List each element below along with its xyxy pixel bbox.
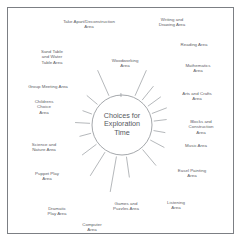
spoke-line bbox=[110, 157, 116, 192]
spoke-line bbox=[90, 152, 105, 176]
spoke-line bbox=[148, 97, 161, 106]
spoke-line bbox=[154, 131, 166, 133]
spoke-line bbox=[126, 157, 129, 178]
spoke-line bbox=[98, 70, 109, 96]
spoke-line bbox=[142, 86, 153, 100]
diagram-canvas: Choices for Exploration Time Writing and… bbox=[0, 0, 242, 242]
spoke-line bbox=[135, 70, 146, 96]
hub-label: Choices for Exploration Time bbox=[93, 112, 151, 137]
spoke-line bbox=[154, 120, 167, 122]
spoke-line bbox=[150, 140, 164, 148]
spoke-line bbox=[152, 108, 167, 114]
spoke-line bbox=[143, 150, 157, 166]
spoke-line bbox=[87, 95, 98, 104]
spoke-line bbox=[83, 111, 92, 114]
spoke-line bbox=[82, 144, 96, 155]
spoke-line bbox=[75, 123, 90, 124]
spoke-line bbox=[80, 133, 92, 136]
